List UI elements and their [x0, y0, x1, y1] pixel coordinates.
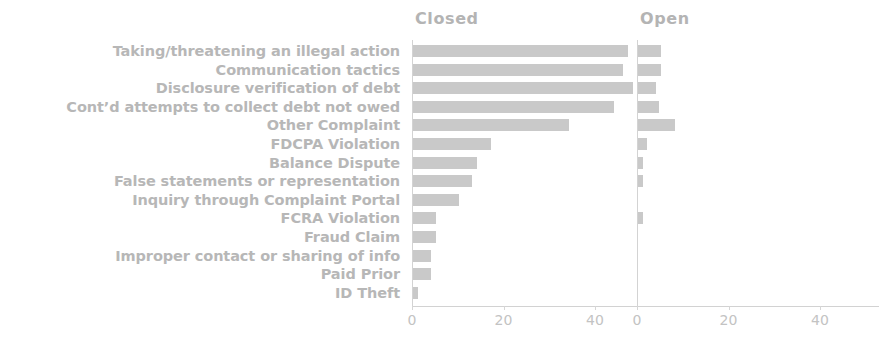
- bar: [413, 268, 431, 280]
- bar: [413, 157, 477, 169]
- category-label: ID Theft: [335, 284, 400, 302]
- x-axis-tick: [504, 306, 505, 310]
- x-axis-tick-label: 40: [811, 312, 829, 328]
- x-axis-tick-label: 40: [586, 312, 604, 328]
- x-axis-tick-label: 0: [633, 312, 642, 328]
- bar-row: [638, 98, 880, 116]
- bar: [413, 231, 436, 243]
- bar-row: [638, 135, 880, 153]
- bar-row: [638, 191, 880, 209]
- bar-row: [413, 265, 638, 283]
- bar-row: [413, 284, 638, 302]
- x-axis-line-closed: [412, 306, 637, 307]
- plot-area-closed: [412, 40, 637, 305]
- bar: [638, 138, 647, 150]
- bar: [638, 101, 659, 113]
- panel-title-open: Open: [640, 9, 690, 28]
- panel-open: Open 02040: [637, 0, 879, 364]
- category-label: Inquiry through Complaint Portal: [132, 191, 400, 209]
- bar: [413, 194, 459, 206]
- bar-row: [413, 191, 638, 209]
- bar-row: [413, 116, 638, 134]
- bar-row: [413, 228, 638, 246]
- bar: [413, 82, 633, 94]
- category-label: Improper contact or sharing of info: [115, 247, 400, 265]
- bar-row: [413, 209, 638, 227]
- bar-row: [413, 172, 638, 190]
- bar: [413, 119, 569, 131]
- bar: [638, 175, 643, 187]
- bar-chart: Taking/threatening an illegal actionComm…: [0, 0, 893, 364]
- x-axis-tick: [820, 306, 821, 310]
- x-axis-tick-label: 20: [720, 312, 738, 328]
- bar: [413, 101, 614, 113]
- x-axis-tick: [637, 306, 638, 310]
- bar-row: [638, 42, 880, 60]
- x-axis-tick-label: 0: [408, 312, 417, 328]
- bar-row: [413, 79, 638, 97]
- bar-row: [638, 172, 880, 190]
- category-label: Cont’d attempts to collect debt not owed: [66, 98, 400, 116]
- category-label: FDCPA Violation: [271, 135, 401, 153]
- category-label: Other Complaint: [267, 116, 400, 134]
- bar-row: [413, 98, 638, 116]
- bar: [638, 45, 661, 57]
- category-label: False statements or representation: [114, 172, 400, 190]
- x-axis-tick: [729, 306, 730, 310]
- bar: [413, 212, 436, 224]
- panel-title-closed: Closed: [415, 9, 479, 28]
- category-label: FCRA Violation: [281, 209, 400, 227]
- bar-row: [638, 61, 880, 79]
- bar-row: [413, 247, 638, 265]
- bar-row: [413, 42, 638, 60]
- bar: [638, 82, 656, 94]
- bar-row: [638, 284, 880, 302]
- category-label: Communication tactics: [216, 61, 400, 79]
- category-label: Taking/threatening an illegal action: [113, 42, 400, 60]
- bar: [638, 64, 661, 76]
- bar-row: [413, 154, 638, 172]
- bar: [413, 287, 418, 299]
- bar-row: [413, 135, 638, 153]
- bar-row: [638, 228, 880, 246]
- bar: [413, 138, 491, 150]
- bar: [413, 175, 472, 187]
- category-label: Balance Dispute: [269, 154, 400, 172]
- bar-row: [638, 154, 880, 172]
- category-axis-labels: Taking/threatening an illegal actionComm…: [0, 40, 404, 305]
- x-axis-tick-label: 20: [495, 312, 513, 328]
- bar-row: [638, 265, 880, 283]
- plot-area-open: [637, 40, 879, 305]
- panel-closed: Closed 02040: [412, 0, 637, 364]
- x-axis-tick: [595, 306, 596, 310]
- category-label: Disclosure verification of debt: [156, 79, 400, 97]
- bar: [638, 119, 675, 131]
- category-label: Fraud Claim: [304, 228, 400, 246]
- x-axis-line-open: [637, 306, 879, 307]
- category-label: Paid Prior: [321, 265, 400, 283]
- bar: [638, 212, 643, 224]
- bar: [413, 45, 628, 57]
- bar-row: [638, 79, 880, 97]
- bar-row: [638, 209, 880, 227]
- bar: [413, 64, 623, 76]
- bar: [638, 157, 643, 169]
- bar-row: [413, 61, 638, 79]
- bar-row: [638, 116, 880, 134]
- x-axis-tick: [412, 306, 413, 310]
- bar-row: [638, 247, 880, 265]
- bar: [413, 250, 431, 262]
